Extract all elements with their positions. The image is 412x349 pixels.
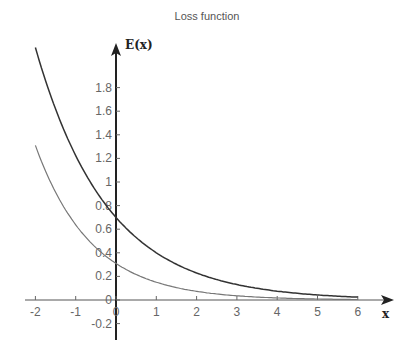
chart-title: Loss function: [175, 10, 240, 22]
y-tick-label: 1.4: [95, 128, 112, 142]
y-tick-label: 1: [105, 175, 112, 189]
y-tick-label: 1.8: [95, 81, 112, 95]
series-line-2: [35, 145, 357, 299]
x-tick-label: -1: [70, 305, 81, 319]
y-tick-label: 1.2: [95, 151, 112, 165]
x-tick-label: 2: [193, 305, 200, 319]
y-tick-label: 0: [105, 293, 112, 307]
x-tick-label: 3: [234, 305, 241, 319]
series-line-1: [35, 48, 357, 298]
axes: [25, 43, 394, 340]
data-series: [35, 48, 357, 300]
x-tick-label: 4: [274, 305, 281, 319]
x-tick-label: 1: [153, 305, 160, 319]
y-tick-label: 0.4: [95, 246, 112, 260]
y-tick-label: 0.6: [95, 222, 112, 236]
tick-marks: -2-10123456-0.20.20.40.60.811.21.41.61.8…: [30, 81, 361, 331]
x-tick-label: -2: [30, 305, 41, 319]
loss-function-chart: Loss function -2-10123456-0.20.20.40.60.…: [0, 0, 412, 349]
y-tick-label: 1.6: [95, 104, 112, 118]
x-tick-label: 5: [314, 305, 321, 319]
y-axis-label: E(x): [125, 38, 153, 52]
y-tick-label: -0.2: [91, 317, 112, 331]
x-tick-label: 6: [354, 305, 361, 319]
x-axis-label: x: [382, 307, 390, 321]
y-tick-label: 0.2: [95, 269, 112, 283]
x-tick-label: 0: [113, 305, 120, 319]
